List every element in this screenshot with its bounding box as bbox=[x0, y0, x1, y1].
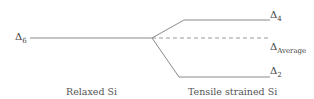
delta4-label: Δ4 bbox=[270, 10, 282, 23]
delta2-label: Δ2 bbox=[270, 66, 282, 79]
delta2-level-line bbox=[152, 38, 270, 77]
average-label: ΔAverage bbox=[270, 42, 306, 55]
tensile-strained-si-caption: Tensile strained Si bbox=[188, 86, 277, 97]
relaxed-si-caption: Relaxed Si bbox=[66, 86, 117, 97]
delta6-label: Δ6 bbox=[15, 32, 27, 45]
delta4-level-line bbox=[152, 20, 270, 38]
energy-level-lines bbox=[0, 0, 314, 99]
